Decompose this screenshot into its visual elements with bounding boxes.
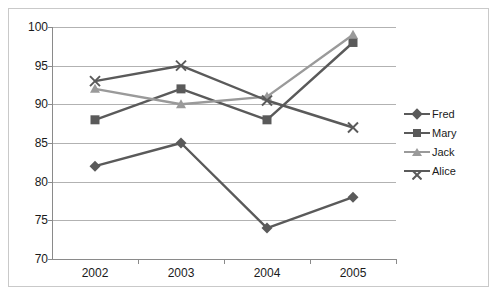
legend-label: Alice	[430, 165, 456, 177]
square-marker	[263, 115, 272, 124]
series-line	[95, 143, 353, 228]
legend: FredMaryJackAlice	[404, 104, 484, 180]
legend-label: Mary	[430, 127, 456, 139]
line-chart: 100959085807570 2002200320042005 FredMar…	[0, 0, 497, 296]
series-fred	[90, 138, 359, 234]
legend-item-alice[interactable]: Alice	[404, 161, 484, 180]
triangle-icon	[404, 145, 430, 159]
square-icon	[404, 126, 430, 140]
legend-item-fred[interactable]: Fred	[404, 104, 484, 123]
series-mary	[91, 38, 358, 124]
legend-label: Fred	[430, 108, 455, 120]
square-marker	[91, 115, 100, 124]
series-line	[95, 35, 353, 105]
x-icon	[404, 164, 430, 178]
series-line	[95, 43, 353, 120]
diamond-marker	[348, 192, 359, 203]
triangle-marker	[348, 30, 358, 39]
legend-item-mary[interactable]: Mary	[404, 123, 484, 142]
legend-item-jack[interactable]: Jack	[404, 142, 484, 161]
diamond-icon	[404, 107, 430, 121]
legend-label: Jack	[430, 146, 455, 158]
square-marker	[349, 38, 358, 47]
series-jack	[90, 30, 358, 109]
square-marker	[177, 84, 186, 93]
series-alice	[90, 61, 358, 133]
diamond-marker	[90, 161, 101, 172]
